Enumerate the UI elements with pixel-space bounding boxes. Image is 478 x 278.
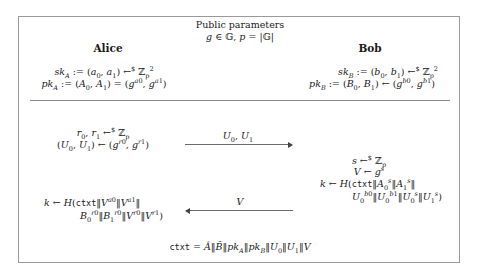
- bob-secret-key: skB := (b0, b1) ←$ ℤp2: [338, 66, 438, 77]
- arrow-right-icon: [185, 144, 292, 145]
- alice-key-derivation-line2: B0r0‖B1r0‖Vr0‖Vr1): [80, 210, 163, 221]
- bob-label: Bob: [358, 43, 381, 54]
- public-parameters-title: Public parameters: [196, 19, 284, 30]
- alice-public-key: pkA := (A0, A1) = (ga0, ga1): [42, 78, 167, 89]
- message-2-label: V: [237, 196, 244, 207]
- bob-key-derivation-line1: k ← H(ctxt‖A0s‖A1s‖: [320, 178, 415, 190]
- alice-sample-randomness: r0, r1 ←$ ℤp: [77, 127, 130, 138]
- alice-key-derivation-line1: k ← H(ctxt‖Va0‖Va1‖: [44, 197, 140, 209]
- alice-label: Alice: [93, 43, 122, 54]
- public-parameters-values: g ∈ 𝔾, p = |𝔾|: [206, 31, 274, 42]
- bob-key-derivation-line2: U0b0‖U0b1‖U0s‖U1s): [352, 191, 442, 202]
- arrow-left-icon: [186, 210, 293, 211]
- alice-compute-u: (U0, U1) ← (gr0, gr1): [57, 139, 149, 150]
- message-1-label: U0, U1: [223, 130, 253, 141]
- bob-public-key: pkB := (B0, B1) ← (gb0, gb1): [309, 78, 435, 89]
- separator-line: [30, 100, 450, 101]
- ctxt-definition: ctxt = Â‖B̂‖pkA‖pkB‖U0‖U1‖V: [169, 241, 310, 253]
- bob-compute-v: V ← gs: [354, 166, 384, 177]
- alice-secret-key: skA := (a0, a1) ←$ ℤp2: [54, 66, 153, 77]
